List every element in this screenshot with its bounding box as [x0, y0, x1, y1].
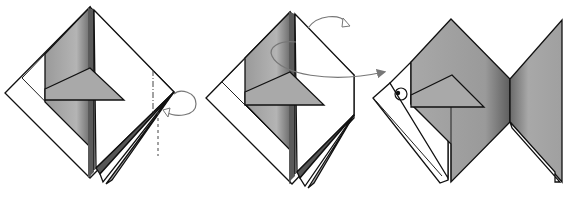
step-2	[206, 12, 384, 188]
eye-dot-icon	[396, 91, 400, 95]
origami-diagram: Origami fish folding steps	[0, 0, 568, 197]
turn-over-arrow-icon	[308, 17, 346, 28]
step-3	[373, 19, 562, 183]
step-1	[5, 7, 196, 184]
